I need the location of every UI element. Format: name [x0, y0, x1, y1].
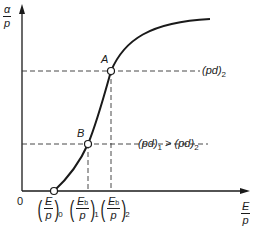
x-tick-Eb-over-p-2: ( Eb p ) 2: [99, 196, 130, 221]
point-A-label: A: [101, 54, 108, 65]
x-tick-0-numerator: E: [44, 196, 53, 209]
x-tick-1-numerator: Eb: [76, 196, 89, 209]
y-axis-label-denominator: p: [4, 17, 10, 29]
pd1-gt-pd2-label: (pd)1 > (pd)2: [138, 138, 199, 152]
x-tick-2-numerator: Eb: [107, 196, 120, 209]
x-tick-1-num-subscript: b: [84, 199, 88, 206]
right-paren: ): [122, 197, 127, 221]
left-paren: (: [70, 197, 75, 221]
pd2-label: (pd)2: [202, 65, 226, 79]
x-axis-arrow-icon: [240, 188, 250, 194]
point-B-label: B: [77, 128, 84, 139]
pd2-text: (pd): [202, 64, 222, 76]
x-tick-1-denominator: p: [80, 209, 86, 221]
x-axis-label: E p: [241, 201, 250, 226]
point-origin-marker: [51, 188, 58, 195]
x-tick-2-fraction: Eb p: [107, 196, 120, 221]
right-paren: ): [91, 197, 96, 221]
right-paren: ): [55, 197, 60, 221]
pd2-subscript: 2: [222, 70, 226, 79]
left-paren: (: [38, 197, 43, 221]
point-B-marker: [85, 141, 92, 148]
breakdown-curve: [54, 19, 210, 191]
y-axis-arrow-icon: [19, 4, 25, 14]
x-tick-0-fraction: E p: [44, 196, 53, 221]
x-tick-Eb-over-p-1: ( Eb p ) 1: [68, 196, 99, 221]
x-tick-1-fraction: Eb p: [76, 196, 89, 221]
x-tick-0-denominator: p: [46, 209, 52, 221]
x-tick-2-denominator: p: [111, 209, 117, 221]
x-tick-E-over-p-0: ( E p ) 0: [36, 196, 63, 221]
x-axis-label-denominator: p: [243, 214, 249, 226]
pd2-compare-subscript: 2: [194, 143, 198, 152]
x-tick-2-num-subscript: b: [115, 199, 119, 206]
greater-than-sign: >: [162, 137, 175, 149]
x-axis-label-numerator: E: [241, 201, 250, 214]
left-paren: (: [101, 197, 106, 221]
pd2-compare-text: (pd): [175, 137, 195, 149]
y-axis-label: α p: [3, 4, 11, 29]
point-A-marker: [108, 68, 115, 75]
pd1-text: (pd): [138, 137, 158, 149]
origin-label: 0: [17, 196, 23, 207]
y-axis-label-numerator: α: [3, 4, 11, 17]
